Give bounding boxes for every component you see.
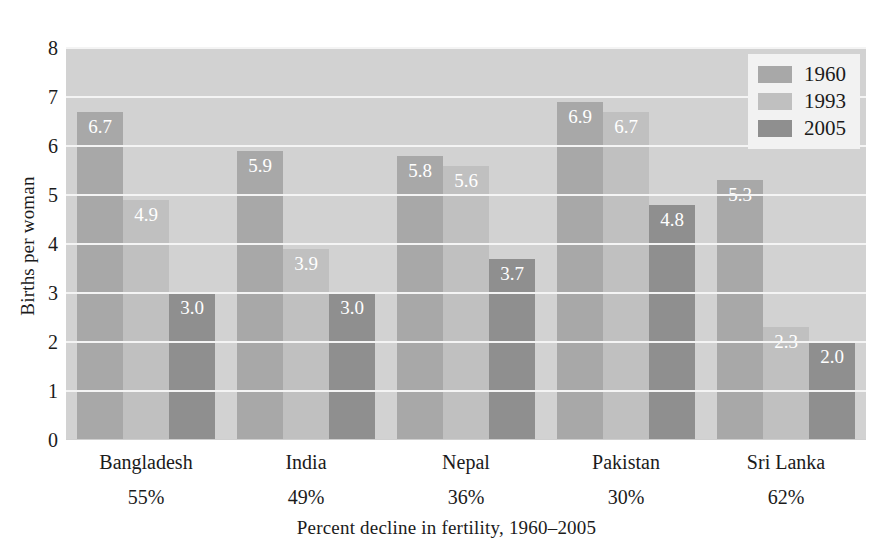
bar-india-2005[interactable]: 3.0 [329,293,375,440]
bar-nepal-2005[interactable]: 3.7 [489,259,535,440]
bar-india-1960[interactable]: 5.9 [237,151,283,440]
bar-nepal-1993[interactable]: 5.6 [443,166,489,440]
y-axis-tick-label: 6 [30,136,58,156]
x-axis-percent-label: 36% [448,487,485,507]
bar-sri-lanka-1993[interactable]: 2.3 [763,327,809,440]
x-axis-percent-label: 30% [608,487,645,507]
x-axis-category-label: Nepal [442,452,490,472]
y-axis-tick-label: 2 [30,332,58,352]
bar-group: 5.93.93.0 [237,48,375,440]
bar-value-label: 3.0 [329,298,375,319]
y-axis-tick-label: 8 [30,38,58,58]
bar-sri-lanka-2005[interactable]: 2.0 [809,342,855,440]
legend-item[interactable]: 1993 [758,88,846,115]
bar-bangladesh-1993[interactable]: 4.9 [123,200,169,440]
x-axis-percent-label: 49% [288,487,325,507]
legend-swatch-2005 [758,120,792,137]
x-axis-title: Percent decline in fertility, 1960–2005 [0,517,893,539]
bar-value-label: 6.9 [557,107,603,128]
bar-value-label: 5.6 [443,171,489,192]
bar-value-label: 3.9 [283,254,329,275]
bar-value-label: 4.9 [123,205,169,226]
bar-groups: 6.74.93.05.93.93.05.85.63.76.96.74.85.32… [66,48,866,440]
bar-india-1993[interactable]: 3.9 [283,249,329,440]
bar-group: 5.85.63.7 [397,48,535,440]
bar-value-label: 2.3 [763,332,809,353]
x-axis-percent-label: 62% [768,487,805,507]
y-axis-tick-label: 4 [30,234,58,254]
bar-bangladesh-2005[interactable]: 3.0 [169,293,215,440]
legend-label-1993: 1993 [804,91,846,112]
bar-value-label: 4.8 [649,210,695,231]
x-axis-category-label: Pakistan [592,452,660,472]
y-axis-tick-label: 0 [30,430,58,450]
y-axis-tick-label: 7 [30,87,58,107]
bar-value-label: 2.0 [809,347,855,368]
fertility-bar-chart: Births per woman 012345678 6.74.93.05.93… [0,0,893,544]
bar-pakistan-1993[interactable]: 6.7 [603,112,649,440]
bar-pakistan-1960[interactable]: 6.9 [557,102,603,440]
x-axis-category-label: Bangladesh [99,452,192,472]
bar-pakistan-2005[interactable]: 4.8 [649,205,695,440]
x-axis-category-label: Sri Lanka [747,452,825,472]
legend-label-2005: 2005 [804,118,846,139]
legend-label-1960: 1960 [804,64,846,85]
bar-nepal-1960[interactable]: 5.8 [397,156,443,440]
bar-value-label: 5.9 [237,156,283,177]
y-axis-tick-label: 3 [30,283,58,303]
bar-bangladesh-1960[interactable]: 6.7 [77,112,123,440]
x-axis-percent-label: 55% [128,487,165,507]
plot-area: 6.74.93.05.93.93.05.85.63.76.96.74.85.32… [66,48,866,440]
legend-swatch-1960 [758,66,792,83]
y-axis-tick-label: 1 [30,381,58,401]
y-axis-tick-label: 5 [30,185,58,205]
bar-value-label: 5.8 [397,161,443,182]
legend-item[interactable]: 1960 [758,61,846,88]
legend-swatch-1993 [758,93,792,110]
x-axis-category-label: India [285,452,326,472]
bar-value-label: 6.7 [603,117,649,138]
bar-value-label: 6.7 [77,117,123,138]
bar-sri-lanka-1960[interactable]: 5.3 [717,180,763,440]
bar-value-label: 5.3 [717,185,763,206]
legend-item[interactable]: 2005 [758,115,846,142]
bar-value-label: 3.7 [489,264,535,285]
bar-value-label: 3.0 [169,298,215,319]
bar-group: 6.74.93.0 [77,48,215,440]
bar-group: 6.96.74.8 [557,48,695,440]
legend: 1960 1993 2005 [748,54,860,149]
